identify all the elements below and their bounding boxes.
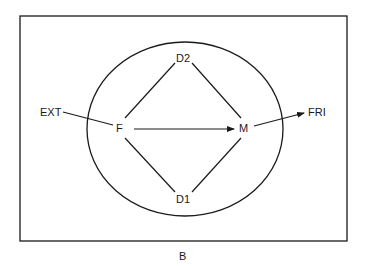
node-f-label: F: [116, 122, 123, 134]
node-d2-label: D2: [176, 52, 190, 64]
edge-f-to-d2: [125, 63, 175, 118]
node-d1-label: D1: [176, 193, 190, 205]
edge-d2-to-m: [192, 63, 241, 118]
node-ext-label: EXT: [40, 106, 62, 118]
node-m-label: M: [239, 122, 248, 134]
edge-m-to-fri-arrow: [254, 113, 304, 126]
edge-f-to-d1: [125, 138, 175, 192]
node-fri-label: FRI: [308, 106, 326, 118]
figure-caption: B: [179, 250, 186, 262]
diagram-canvas: EXT F D2 D1 M FRI B: [0, 0, 365, 266]
edge-d1-to-m: [192, 138, 241, 192]
